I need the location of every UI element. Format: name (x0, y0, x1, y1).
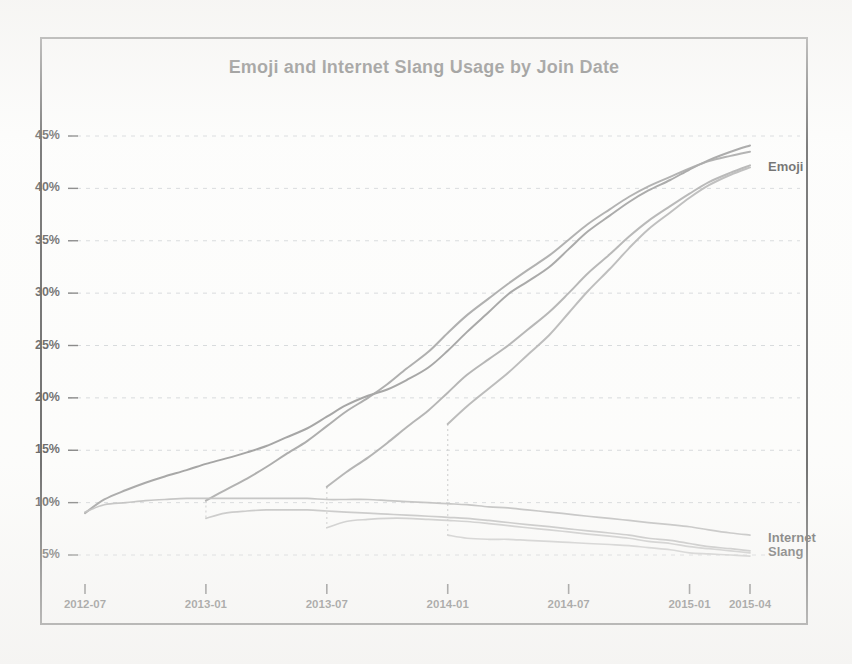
x-tick-label: 2015-04 (710, 598, 790, 610)
x-tick-label: 2012-07 (45, 598, 125, 610)
y-tick-label: 25% (14, 338, 60, 352)
y-tick-label: 10% (14, 495, 60, 509)
y-tick-label: 5% (14, 547, 60, 561)
x-tick-label: 2014-01 (408, 598, 488, 610)
y-tick-label: 20% (14, 390, 60, 404)
y-tick-label: 15% (14, 442, 60, 456)
x-tick-label: 2014-07 (529, 598, 609, 610)
series-label-slang: Slang (768, 544, 803, 559)
page-title: Emoji and Internet Slang Usage by Join D… (40, 57, 808, 78)
y-tick-label: 45% (14, 128, 60, 142)
x-tick-label: 2013-07 (287, 598, 367, 610)
plot-frame (40, 37, 808, 625)
y-tick-label: 30% (14, 285, 60, 299)
series-label-emoji: Emoji (768, 159, 803, 174)
chart-page: Emoji and Internet Slang Usage by Join D… (0, 0, 852, 664)
x-tick-label: 2013-01 (166, 598, 246, 610)
y-tick-label: 40% (14, 180, 60, 194)
y-tick-label: 35% (14, 233, 60, 247)
